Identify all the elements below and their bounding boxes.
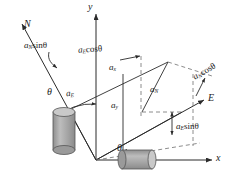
- label-ae-sin-theta: aEsinθ: [176, 121, 199, 131]
- label-a-x-sub: x: [114, 66, 116, 72]
- label-a-x: ax: [109, 62, 116, 72]
- label-a-e-sub: E: [70, 92, 74, 98]
- cylinder-horizontal: [118, 150, 156, 169]
- axis-label-n: N: [24, 18, 31, 29]
- label-theta-upper: θ: [47, 86, 52, 97]
- label-a-y: ay: [111, 100, 118, 110]
- label-ae-cos-theta-top: aEcosθ: [78, 43, 103, 54]
- axis-label-e: E: [208, 92, 214, 103]
- vector-diagram-svg: [0, 0, 235, 182]
- axis-label-y: y: [88, 1, 92, 12]
- label-a-n-sub: N: [155, 88, 159, 94]
- label-theta-lower: θ: [117, 142, 122, 153]
- leader-an-sin: [49, 52, 57, 68]
- dim-ae-cos-top: [120, 56, 140, 60]
- label-a-e: aE: [66, 88, 75, 99]
- label-an-sin-theta: aNsinθ: [24, 40, 47, 50]
- label-ae-sin-trig: sinθ: [184, 121, 199, 131]
- label-ae-cos-top-trig: cosθ: [86, 43, 103, 54]
- cylinder-vertical: [53, 108, 75, 155]
- label-an-sin-trig: sinθ: [32, 40, 47, 50]
- axis-label-x: x: [216, 152, 220, 163]
- label-a-y-sub: y: [116, 104, 118, 110]
- diagram-canvas: y x N E aNsinθ aEcosθ ax aE aN ay aNcosθ…: [0, 0, 235, 182]
- label-a-n: aN: [150, 84, 158, 94]
